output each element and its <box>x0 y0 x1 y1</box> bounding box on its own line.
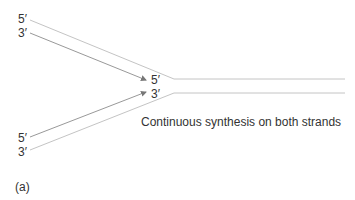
label-fork-5prime: 5′ <box>151 74 160 86</box>
label-bottom-5prime: 5′ <box>18 132 27 144</box>
top-leading-strand-arrow <box>30 33 146 80</box>
label-top-5prime: 5′ <box>18 13 27 25</box>
panel-label: (a) <box>15 181 30 193</box>
label-fork-3prime: 3′ <box>151 88 160 100</box>
fork-lines <box>0 0 355 200</box>
replication-fork-diagram: 5′ 3′ 5′ 3′ 5′ 3′ Continuous synthesis o… <box>0 0 355 200</box>
label-bottom-3prime: 3′ <box>18 146 27 158</box>
caption: Continuous synthesis on both strands <box>141 116 341 128</box>
top-parental-strand <box>30 20 174 79</box>
bottom-strand-arrow <box>30 92 146 137</box>
label-top-3prime: 3′ <box>18 27 27 39</box>
